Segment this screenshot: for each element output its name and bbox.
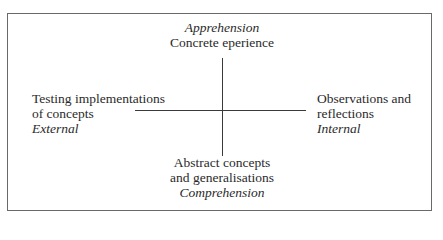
left-label-line1: Testing implementations — [32, 91, 165, 106]
vertical-axis — [222, 58, 223, 156]
bottom-label-line2: and generalisations — [122, 170, 322, 185]
top-label: Concrete eperience — [122, 35, 322, 50]
right-pole-label: Observations and reflections Internal — [317, 91, 411, 136]
right-mode: Internal — [317, 121, 411, 136]
top-pole-label: Apprehension Concrete eperience — [122, 20, 322, 50]
left-mode: External — [32, 121, 165, 136]
right-label-line1: Observations and — [317, 91, 411, 106]
left-pole-label: Testing implementations of concepts Exte… — [32, 91, 165, 136]
left-label-line2: of concepts — [32, 106, 165, 121]
bottom-label-line1: Abstract concepts — [122, 155, 322, 170]
top-mode: Apprehension — [122, 20, 322, 35]
bottom-mode: Comprehension — [122, 185, 322, 200]
bottom-pole-label: Abstract concepts and generalisations Co… — [122, 155, 322, 200]
right-label-line2: reflections — [317, 106, 411, 121]
